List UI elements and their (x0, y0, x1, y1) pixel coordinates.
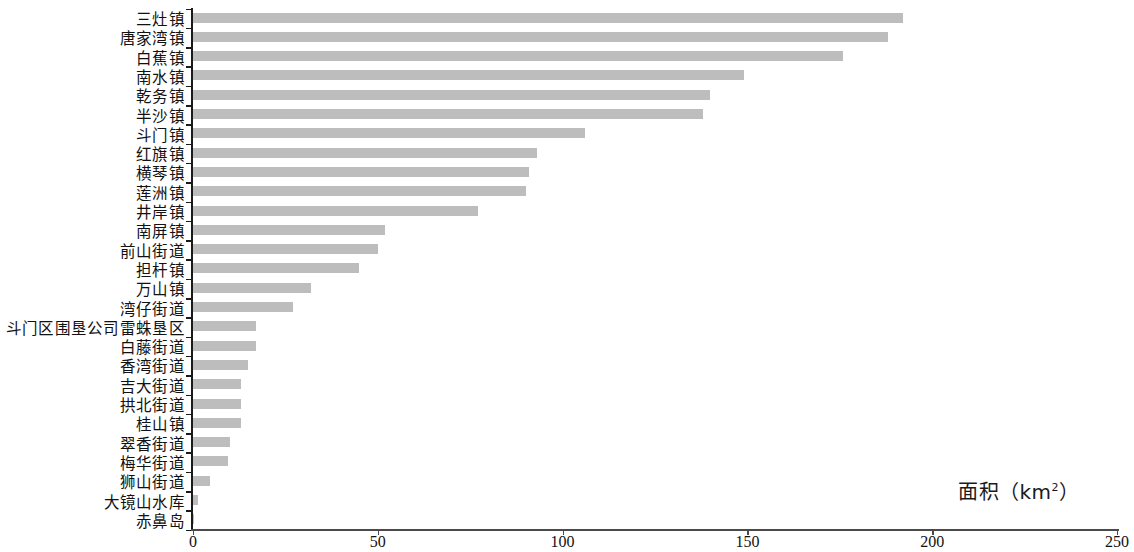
bar-row (193, 336, 1117, 355)
category-label: 唐家湾镇 (0, 31, 185, 47)
bar-row (193, 298, 1117, 317)
category-label: 南屏镇 (0, 224, 185, 240)
bar[interactable] (193, 302, 293, 312)
bar[interactable] (193, 148, 537, 158)
bar[interactable] (193, 321, 256, 331)
x-axis-title-tail: ） (1059, 480, 1080, 504)
category-label: 拱北街道 (0, 398, 185, 414)
category-label: 半沙镇 (0, 109, 185, 125)
bar[interactable] (193, 167, 529, 177)
category-label: 万山镇 (0, 282, 185, 298)
category-label: 狮山街道 (0, 475, 185, 491)
x-axis-tick-label: 200 (920, 534, 944, 550)
category-label: 斗门镇 (0, 128, 185, 144)
category-label: 白藤街道 (0, 340, 185, 356)
bar-row (193, 394, 1117, 413)
category-label: 井岸镇 (0, 205, 185, 221)
bar-row (193, 240, 1117, 259)
x-axis-line (191, 529, 1119, 531)
category-label: 香湾街道 (0, 359, 185, 375)
x-axis-title: 面积（km2） (958, 476, 1080, 505)
bar-row (193, 27, 1117, 46)
bar-row (193, 85, 1117, 104)
category-label: 白蕉镇 (0, 51, 185, 67)
category-label: 乾务镇 (0, 89, 185, 105)
bar-row (193, 317, 1117, 336)
x-axis-title-main: 面积（km (958, 480, 1052, 504)
x-axis-tick-label: 250 (1105, 534, 1129, 550)
bar-row (193, 182, 1117, 201)
bar-row (193, 105, 1117, 124)
bar[interactable] (193, 437, 230, 447)
bar[interactable] (193, 244, 378, 254)
bar-row (193, 8, 1117, 27)
bar[interactable] (193, 225, 385, 235)
category-label: 桂山镇 (0, 417, 185, 433)
bar-row (193, 259, 1117, 278)
x-axis-tick-label: 100 (551, 534, 575, 550)
bar[interactable] (193, 456, 228, 466)
category-label: 翠香街道 (0, 437, 185, 453)
bar-row (193, 66, 1117, 85)
bar[interactable] (193, 206, 478, 216)
bar-row (193, 278, 1117, 297)
category-label: 梅华街道 (0, 456, 185, 472)
category-label: 莲洲镇 (0, 186, 185, 202)
bar-row (193, 143, 1117, 162)
bar-row (193, 220, 1117, 239)
category-label: 红旗镇 (0, 147, 185, 163)
category-label: 三灶镇 (0, 12, 185, 28)
bar[interactable] (193, 186, 526, 196)
category-label: 横琴镇 (0, 166, 185, 182)
bar[interactable] (193, 70, 744, 80)
category-label: 大镜山水库 (0, 495, 185, 511)
bar-row (193, 452, 1117, 471)
bar-row (193, 162, 1117, 181)
bar[interactable] (193, 109, 703, 119)
category-label: 吉大街道 (0, 379, 185, 395)
bar[interactable] (193, 418, 241, 428)
category-label: 前山街道 (0, 244, 185, 260)
x-axis-title-exponent: 2 (1052, 481, 1060, 494)
bar-row (193, 375, 1117, 394)
bar-row (193, 510, 1117, 529)
bars-container (193, 8, 1117, 529)
bar-row (193, 433, 1117, 452)
category-label: 南水镇 (0, 70, 185, 86)
category-label: 斗门区围垦公司雷蛛垦区 (0, 321, 185, 337)
bar[interactable] (193, 379, 241, 389)
bar[interactable] (193, 32, 888, 42)
bar-row (193, 201, 1117, 220)
bar[interactable] (193, 128, 585, 138)
bar[interactable] (193, 283, 311, 293)
bar-row (193, 124, 1117, 143)
bar[interactable] (193, 13, 903, 23)
bar[interactable] (193, 495, 198, 505)
x-axis-tick-label: 150 (735, 534, 759, 550)
x-axis-tick-label: 50 (370, 534, 386, 550)
category-label: 担杆镇 (0, 263, 185, 279)
bar[interactable] (193, 51, 843, 61)
x-axis-tick-label: 0 (189, 534, 197, 550)
bar-row (193, 413, 1117, 432)
bar[interactable] (193, 476, 210, 486)
bar[interactable] (193, 341, 256, 351)
bar-row (193, 355, 1117, 374)
category-label: 湾仔街道 (0, 302, 185, 318)
bar-row (193, 47, 1117, 66)
bar[interactable] (193, 263, 359, 273)
category-label: 赤鼻岛 (0, 514, 185, 530)
bar[interactable] (193, 514, 194, 524)
bar[interactable] (193, 399, 241, 409)
bar-chart: 三灶镇唐家湾镇白蕉镇南水镇乾务镇半沙镇斗门镇红旗镇横琴镇莲洲镇井岸镇南屏镇前山街… (0, 0, 1134, 552)
bar[interactable] (193, 360, 248, 370)
bar[interactable] (193, 90, 710, 100)
